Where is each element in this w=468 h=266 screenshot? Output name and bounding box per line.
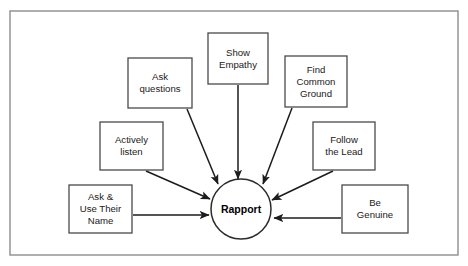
node-find-common-ground[interactable]: FindCommonGround bbox=[285, 56, 347, 107]
node-label-line: questions bbox=[139, 83, 180, 94]
node-label-line: Name bbox=[88, 215, 114, 226]
node-label-line: Genuine bbox=[357, 209, 393, 220]
node-label-line: Empathy bbox=[219, 58, 257, 69]
node-label-line: Show bbox=[226, 46, 250, 57]
node-ask-questions[interactable]: Askquestions bbox=[128, 58, 192, 108]
node-label-line: Ask bbox=[152, 71, 168, 82]
node-label-line: Use Their bbox=[80, 203, 122, 214]
node-actively-listen[interactable]: Activelylisten bbox=[100, 122, 163, 170]
node-label-line: listen bbox=[120, 146, 142, 157]
node-ask-use-their-name[interactable]: Ask &Use TheirName bbox=[69, 185, 132, 233]
node-label-line: the Lead bbox=[325, 146, 362, 157]
node-label-line: Actively bbox=[115, 134, 148, 145]
node-label-line: Be bbox=[369, 197, 381, 208]
node-follow-the-lead[interactable]: Followthe Lead bbox=[313, 122, 375, 170]
node-label-line: Ground bbox=[300, 87, 332, 98]
node-be-genuine[interactable]: BeGenuine bbox=[342, 185, 408, 233]
node-label-line: Ask & bbox=[88, 191, 114, 202]
diagram-root: AskquestionsShowEmpathyFindCommonGroundA… bbox=[0, 0, 468, 266]
node-show-empathy[interactable]: ShowEmpathy bbox=[208, 33, 268, 84]
node-label-line: Find bbox=[307, 63, 326, 74]
rapport-label: Rapport bbox=[221, 203, 262, 215]
rapport-diagram: AskquestionsShowEmpathyFindCommonGroundA… bbox=[0, 0, 468, 266]
node-label-follow-the-lead: Followthe Lead bbox=[325, 134, 362, 157]
node-label-line: Common bbox=[297, 75, 336, 86]
hub-node[interactable]: Rapport bbox=[211, 179, 271, 239]
node-label-line: Follow bbox=[330, 134, 358, 145]
